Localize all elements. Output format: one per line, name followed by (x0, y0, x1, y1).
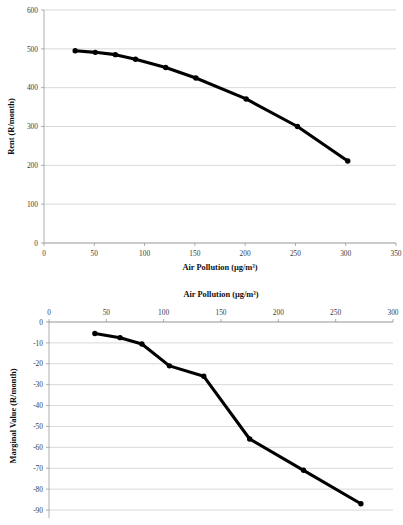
data-point (301, 468, 306, 473)
rent-chart-svg: 0100200300400500600 05010015020025030035… (0, 0, 403, 272)
x-tick-label: 150 (215, 308, 226, 317)
y-tick-label: -60 (33, 443, 43, 452)
x-tick-label: 50 (91, 249, 99, 258)
y-tick-label: 600 (27, 6, 38, 15)
x-axis-title: Air Pollution (µg/m³) (183, 290, 258, 299)
data-series-group (72, 48, 350, 164)
marginal-value-chart-svg: 0-10-20-30-40-50-60-70-80-90 05010015020… (0, 272, 403, 525)
data-point (201, 374, 206, 379)
y-tick-labels: 0-10-20-30-40-50-60-70-80-90 (33, 318, 43, 515)
y-tick-label: -70 (33, 464, 43, 473)
gridlines-group (44, 10, 396, 243)
x-tick-label: 300 (340, 249, 351, 258)
data-point (113, 52, 118, 57)
chart-rent-vs-pollution: 0100200300400500600 05010015020025030035… (0, 0, 403, 272)
axes-group (46, 319, 393, 518)
data-line (95, 333, 361, 503)
chart-marginal-value-vs-pollution: 0-10-20-30-40-50-60-70-80-90 05010015020… (0, 272, 403, 525)
y-tick-label: -10 (33, 339, 43, 348)
data-point (345, 158, 350, 163)
x-tick-label: 200 (240, 249, 251, 258)
x-tick-label: 0 (47, 308, 51, 317)
data-point (193, 75, 198, 80)
data-point (133, 57, 138, 62)
x-tick-labels: 050100150200250300 (47, 308, 399, 317)
x-axis-title: Air Pollution (µg/m³) (182, 263, 257, 272)
data-point (92, 331, 97, 336)
y-tick-label: -80 (33, 485, 43, 494)
figure-page: 0100200300400500600 05010015020025030035… (0, 0, 403, 525)
y-tick-label: 500 (27, 45, 38, 54)
data-point (93, 50, 98, 55)
y-axis-title: Rent (R/month) (7, 98, 16, 155)
x-tick-label: 200 (273, 308, 284, 317)
y-tick-label: -40 (33, 401, 43, 410)
x-tick-label: 350 (390, 249, 401, 258)
y-tick-label: 300 (27, 122, 38, 131)
x-tick-label: 100 (158, 308, 169, 317)
y-tick-labels: 0100200300400500600 (27, 6, 38, 248)
data-point (247, 436, 252, 441)
gridlines-group (49, 322, 393, 510)
data-point (117, 335, 122, 340)
data-point (295, 124, 300, 129)
x-tick-label: 100 (139, 249, 150, 258)
y-tick-label: -90 (33, 506, 43, 515)
y-tick-label: 200 (27, 161, 38, 170)
y-tick-label: 0 (34, 239, 38, 248)
y-tick-label: -20 (33, 359, 43, 368)
data-point (358, 501, 363, 506)
data-point (167, 363, 172, 368)
x-tick-label: 150 (189, 249, 200, 258)
x-tick-label: 0 (42, 249, 46, 258)
y-tick-label: -30 (33, 380, 43, 389)
y-tick-label: -50 (33, 422, 43, 431)
data-point (163, 65, 168, 70)
axes-group (41, 10, 396, 246)
x-tick-label: 250 (330, 308, 341, 317)
x-tick-label: 250 (290, 249, 301, 258)
y-tick-label: 400 (27, 83, 38, 92)
y-tick-label: 100 (27, 200, 38, 209)
x-tick-labels: 050100150200250300350 (42, 249, 402, 258)
data-point (243, 96, 248, 101)
x-tick-label: 300 (387, 308, 398, 317)
data-series-group (92, 331, 363, 507)
y-tick-label: 0 (39, 318, 43, 327)
y-axis-title: Marginal Value (R/month) (9, 368, 18, 463)
data-point (139, 341, 144, 346)
data-line (75, 51, 348, 161)
data-point (72, 48, 77, 53)
x-tick-label: 50 (103, 308, 111, 317)
